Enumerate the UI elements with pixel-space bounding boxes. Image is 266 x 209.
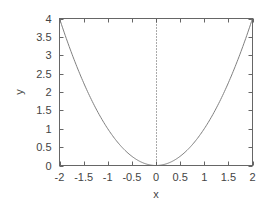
y-tick-label: 3 bbox=[45, 49, 51, 61]
x-tick-label: 0 bbox=[153, 171, 159, 183]
x-tick-label: 2 bbox=[249, 171, 255, 183]
x-tick-label: -0.5 bbox=[122, 171, 141, 183]
x-tick-label: 0.5 bbox=[172, 171, 187, 183]
parabola-curve bbox=[60, 19, 253, 166]
x-tick-label: 1 bbox=[201, 171, 207, 183]
x-axis-label: x bbox=[153, 188, 159, 200]
y-tick-label: 1 bbox=[45, 123, 51, 135]
chart-canvas: -2-1.5-1-0.500.511.52 00.511.522.533.54 … bbox=[0, 0, 266, 209]
y-tick-label: 0.5 bbox=[36, 141, 51, 153]
y-axis-label: y bbox=[13, 89, 25, 95]
x-tick-label: 1.5 bbox=[221, 171, 236, 183]
y-axis-ticks: 00.511.522.533.54 bbox=[36, 13, 252, 172]
y-tick-label: 4 bbox=[45, 13, 51, 25]
x-axis-ticks: -2-1.5-1-0.500.511.52 bbox=[55, 19, 256, 183]
y-tick-label: 2.5 bbox=[36, 68, 51, 80]
x-tick-label: -1.5 bbox=[74, 171, 93, 183]
x-tick-label: -2 bbox=[55, 171, 65, 183]
plot-frame bbox=[60, 19, 253, 166]
x-tick-label: -1 bbox=[103, 171, 113, 183]
y-tick-label: 3.5 bbox=[36, 31, 51, 43]
y-tick-label: 0 bbox=[45, 160, 51, 172]
y-tick-label: 2 bbox=[45, 86, 51, 98]
y-tick-label: 1.5 bbox=[36, 104, 51, 116]
